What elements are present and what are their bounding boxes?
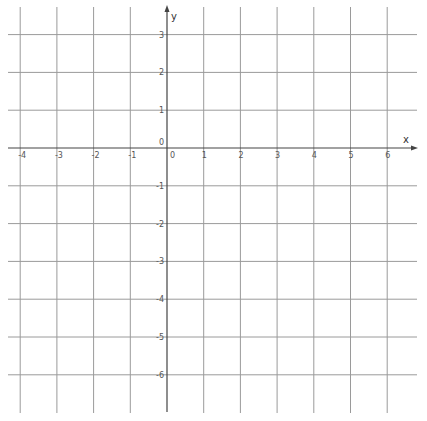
y-axis-label: y	[171, 11, 177, 22]
y-tick-label: -6	[156, 371, 164, 380]
y-tick-label: -2	[156, 220, 164, 229]
x-tick-label: 1	[202, 151, 207, 160]
horizontal-gridlines	[8, 35, 417, 375]
x-tick-label: -1	[128, 151, 136, 160]
y-tick-label: -4	[156, 295, 164, 304]
x-tick-label: -2	[92, 151, 100, 160]
y-tick-label: 1	[159, 106, 164, 115]
x-tick-label: 5	[349, 151, 354, 160]
y-tick-labels: 321-1-2-3-4-5-6	[156, 31, 164, 380]
vertical-gridlines	[20, 7, 387, 413]
y-axis-arrow-icon	[165, 5, 170, 12]
x-tick-labels: -4-3-2-10123456	[18, 151, 390, 160]
x-tick-label: 4	[312, 151, 317, 160]
x-tick-label: -4	[18, 151, 26, 160]
x-tick-label: -3	[55, 151, 63, 160]
y-tick-label: -5	[156, 333, 164, 342]
y-tick-label: 3	[159, 31, 164, 40]
x-tick-label: 0	[170, 151, 175, 160]
y-tick-label: -1	[156, 182, 164, 191]
x-axis-label: x	[403, 134, 409, 145]
x-axis-arrow-icon	[411, 146, 418, 151]
origin-label-y: 0	[159, 138, 164, 147]
coordinate-plane: x y 0 -4-3-2-10123456 321-1-2-3-4-5-6	[0, 0, 427, 421]
x-tick-label: 2	[238, 151, 243, 160]
y-tick-label: -3	[156, 257, 164, 266]
x-tick-label: 6	[385, 151, 390, 160]
x-tick-label: 3	[275, 151, 280, 160]
y-tick-label: 2	[159, 68, 164, 77]
